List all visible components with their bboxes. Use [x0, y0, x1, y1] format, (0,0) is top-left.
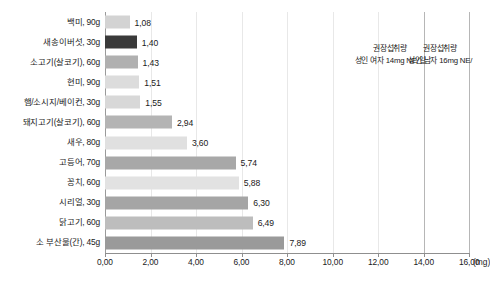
x-tick-mark	[333, 253, 334, 257]
bar-value-label: 6,49	[258, 218, 274, 228]
bar	[105, 196, 248, 209]
bar-row: 햄/소시지/베이컨, 30g1,55	[0, 92, 469, 112]
bar-value-label: 1,51	[144, 77, 160, 87]
bar	[105, 236, 284, 249]
bar-value-label: 6,30	[253, 198, 269, 208]
category-label: 소 부산물(간), 45g	[0, 237, 100, 248]
bar-value-label: 1,43	[143, 57, 159, 67]
category-label: 백미, 90g	[0, 17, 100, 28]
bar-value-label: 2,94	[177, 117, 193, 127]
bar-value-label: 5,88	[244, 178, 260, 188]
category-label: 고등어, 70g	[0, 157, 100, 168]
x-tick-label: 14,00	[414, 257, 434, 267]
bar-group: 5,74	[105, 156, 257, 169]
bar-value-label: 1,08	[135, 17, 151, 27]
x-tick-mark	[151, 253, 152, 257]
bar-value-label: 1,55	[145, 97, 161, 107]
bar-row: 꽁치, 60g5,88	[0, 173, 469, 193]
bar	[105, 216, 253, 229]
category-label: 꽁치, 60g	[0, 177, 100, 188]
bar	[105, 96, 140, 109]
category-label: 소고기(살코기), 60g	[0, 57, 100, 68]
bar-group: 1,43	[105, 56, 159, 69]
bar-row: 소 부산물(간), 45g7,89	[0, 233, 469, 253]
bar-group: 1,51	[105, 76, 161, 89]
category-label: 시리얼, 30g	[0, 197, 100, 208]
bar-group: 6,30	[105, 196, 270, 209]
category-label: 새송이버섯, 30g	[0, 37, 100, 48]
bar-group: 1,08	[105, 16, 151, 29]
bar-group: 3,60	[105, 136, 208, 149]
x-tick-label: 6,00	[234, 257, 250, 267]
x-axis-unit-label: (mg)	[473, 257, 490, 267]
reference-annotation-16mg: 권장섭취량성인 남자 16mg NE/	[408, 43, 472, 66]
bar-row: 현미, 90g1,51	[0, 72, 469, 92]
category-label: 햄/소시지/베이컨, 30g	[0, 97, 100, 108]
x-tick-label: 8,00	[279, 257, 295, 267]
annotation-title: 권장섭취량	[408, 43, 472, 55]
x-tick-mark	[105, 253, 106, 257]
bar	[105, 36, 137, 49]
bar-group: 1,55	[105, 96, 162, 109]
category-label: 돼지고기(살코기), 60g	[0, 117, 100, 128]
x-tick-mark	[196, 253, 197, 257]
x-tick-mark	[424, 253, 425, 257]
bar	[105, 136, 187, 149]
x-tick-label: 2,00	[143, 257, 159, 267]
bar-group: 2,94	[105, 116, 193, 129]
bar-value-label: 1,40	[142, 37, 158, 47]
bar	[105, 56, 138, 69]
category-label: 닭고기, 60g	[0, 217, 100, 228]
x-tick-label: 12,00	[368, 257, 388, 267]
x-tick-mark	[469, 253, 470, 257]
bar-value-label: 7,89	[289, 238, 305, 248]
bar	[105, 116, 172, 129]
bar-row: 고등어, 70g5,74	[0, 153, 469, 173]
bar-value-label: 3,60	[192, 138, 208, 148]
bar-row: 새우, 80g3,60	[0, 133, 469, 153]
bar-row: 닭고기, 60g6,49	[0, 213, 469, 233]
x-tick-mark	[378, 253, 379, 257]
x-tick-label: 0,00	[97, 257, 113, 267]
x-tick-mark	[242, 253, 243, 257]
x-tick-label: 4,00	[188, 257, 204, 267]
annotation-detail: 성인 남자 16mg NE/	[408, 55, 472, 67]
bar	[105, 156, 236, 169]
bar-row: 돼지고기(살코기), 60g2,94	[0, 112, 469, 132]
bar-group: 7,89	[105, 236, 306, 249]
bar	[105, 176, 239, 189]
bar-group: 1,40	[105, 36, 158, 49]
bar-row: 시리얼, 30g6,30	[0, 193, 469, 213]
bar-group: 6,49	[105, 216, 274, 229]
category-label: 새우, 80g	[0, 137, 100, 148]
x-axis-labels: 0,002,004,006,008,0010,0012,0014,0016,00…	[0, 257, 469, 273]
bar-group: 5,88	[105, 176, 260, 189]
bar-row: 백미, 90g1,08	[0, 12, 469, 32]
x-tick-label: 10,00	[323, 257, 343, 267]
bar	[105, 76, 139, 89]
bar	[105, 16, 130, 29]
x-tick-mark	[287, 253, 288, 257]
bar-value-label: 5,74	[241, 158, 257, 168]
category-label: 현미, 90g	[0, 77, 100, 88]
